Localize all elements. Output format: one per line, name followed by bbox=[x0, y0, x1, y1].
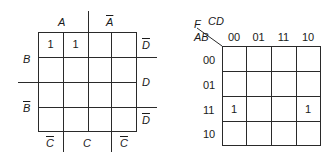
col-header: 01 bbox=[246, 31, 271, 43]
col-header: 10 bbox=[296, 31, 320, 43]
col-header: 00 bbox=[222, 31, 246, 43]
row-vars-label: AB bbox=[194, 31, 209, 43]
grid-line bbox=[246, 46, 247, 146]
grid-line bbox=[296, 46, 297, 146]
map-cell: 1 bbox=[222, 103, 246, 115]
function-label: F bbox=[194, 18, 201, 30]
corner-diagonal bbox=[0, 0, 336, 157]
map-cell: 1 bbox=[296, 103, 320, 115]
col-header: 11 bbox=[271, 31, 296, 43]
col-vars-label: CD bbox=[208, 15, 224, 27]
row-header: 10 bbox=[203, 128, 215, 140]
row-header: 01 bbox=[203, 79, 215, 91]
row-header: 11 bbox=[203, 104, 214, 116]
row-header: 00 bbox=[203, 54, 215, 66]
grid-line bbox=[222, 46, 223, 146]
grid-line bbox=[271, 46, 272, 146]
grid-line bbox=[320, 46, 321, 146]
